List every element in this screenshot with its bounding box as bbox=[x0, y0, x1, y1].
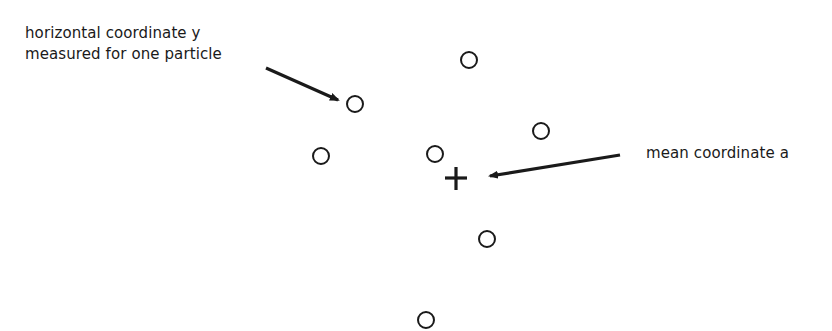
particle-annotation-line1: horizontal coordinate y bbox=[25, 23, 222, 44]
particle-annotation-line2: measured for one particle bbox=[25, 44, 222, 65]
mean-plus-marker bbox=[445, 167, 467, 190]
particle-annotation: horizontal coordinate y measured for one… bbox=[25, 23, 222, 65]
particle-marker-annotated bbox=[347, 96, 363, 112]
particle-arrow bbox=[266, 68, 338, 100]
particle-marker bbox=[313, 148, 329, 164]
particle-marker bbox=[479, 231, 495, 247]
particle-marker bbox=[461, 52, 477, 68]
particle-marker bbox=[427, 146, 443, 162]
particle-marker bbox=[533, 123, 549, 139]
particle-marker bbox=[418, 312, 434, 328]
particles bbox=[313, 52, 549, 328]
mean-annotation: mean coordinate a bbox=[646, 143, 789, 164]
mean-arrow bbox=[490, 155, 620, 176]
